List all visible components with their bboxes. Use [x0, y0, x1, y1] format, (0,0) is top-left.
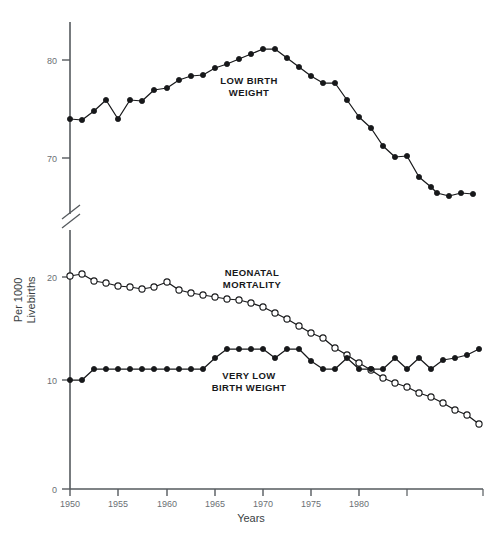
series-line-low-birth-weight — [70, 49, 473, 196]
x-tick-label-1970: 1970 — [253, 499, 273, 509]
series-markers-low-birth-weight — [67, 46, 475, 198]
x-tick-label-1965: 1965 — [205, 499, 225, 509]
x-axis-title: Years — [237, 512, 265, 524]
axis-group — [62, 22, 483, 489]
y-tick-label-20: 20 — [47, 273, 57, 283]
annotation-neonatal-mortality-line1: NEONATAL — [225, 267, 280, 278]
annotation-low-birth-weight-line1: LOW BIRTH — [220, 75, 277, 86]
x-tick-label-1960: 1960 — [157, 499, 177, 509]
series-line-neonatal-mortality — [70, 274, 479, 424]
annotation-neonatal-mortality-line2: MORTALITY — [223, 279, 282, 290]
series-markers-neonatal-mortality — [67, 271, 482, 427]
y-tick-label-10: 10 — [47, 376, 57, 386]
x-tick-label-1975: 1975 — [301, 499, 321, 509]
annotation-very-low-birth-weight-line2: BIRTH WEIGHT — [212, 382, 286, 393]
series-neonatal-mortality: NEONATAL MORTALITY — [67, 267, 482, 427]
chart-canvas: 80 70 20 10 0 1950 1955 1960 1965 1970 1… — [0, 0, 503, 537]
series-very-low-birth-weight: VERY LOW BIRTH WEIGHT — [67, 346, 481, 393]
x-tick-label-1980: 1980 — [349, 499, 369, 509]
y-axis-title-line2: Livebirths — [25, 276, 37, 324]
y-tick-label-70: 70 — [47, 154, 57, 164]
series-low-birth-weight: LOW BIRTH WEIGHT — [67, 46, 475, 198]
x-tick-label-1950: 1950 — [60, 499, 80, 509]
y-axis-title-line1: Per 1000 — [12, 278, 24, 323]
y-tick-label-80: 80 — [47, 56, 57, 66]
annotation-very-low-birth-weight-line1: VERY LOW — [222, 370, 275, 381]
x-ticks: 1950 1955 1960 1965 1970 1975 1980 — [60, 489, 483, 509]
x-tick-label-1955: 1955 — [108, 499, 128, 509]
chart-figure: 80 70 20 10 0 1950 1955 1960 1965 1970 1… — [0, 0, 503, 537]
y-tick-label-0: 0 — [52, 485, 57, 495]
annotation-low-birth-weight-line2: WEIGHT — [229, 87, 269, 98]
